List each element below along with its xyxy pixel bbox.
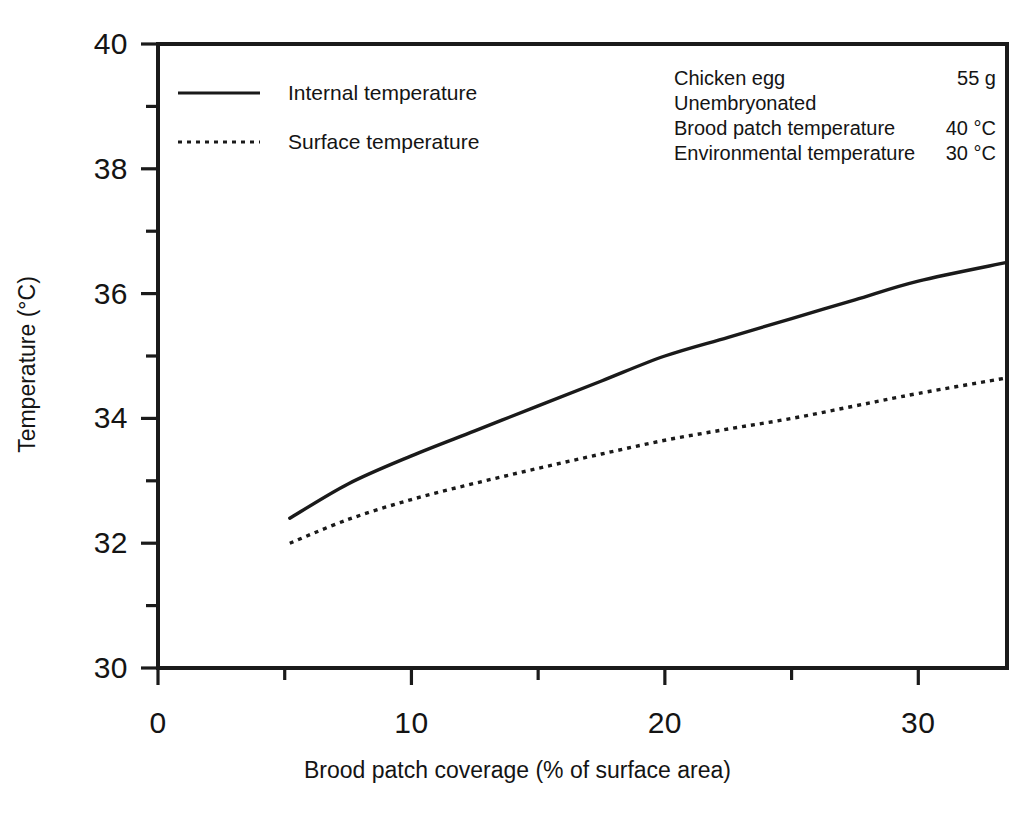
data-series (290, 262, 1007, 543)
x-tick-label: 0 (149, 706, 166, 740)
legend-label-internal: Internal temperature (288, 81, 477, 105)
y-tick-label: 36 (36, 277, 128, 311)
y-tick-label: 32 (36, 526, 128, 560)
chart-legend: Internal temperature Surface temperature (178, 68, 508, 166)
legend-label-surface: Surface temperature (288, 130, 479, 154)
annotation-row: Environmental temperature30 °C (674, 141, 996, 166)
legend-item-surface: Surface temperature (178, 117, 508, 166)
y-tick-label: 38 (36, 152, 128, 186)
annotation-label: Unembryonated (674, 91, 816, 116)
x-tick-label: 30 (901, 706, 935, 740)
x-tick-label: 10 (394, 706, 428, 740)
annotation-value: 40 °C (936, 116, 996, 141)
annotation-row: Unembryonated (674, 91, 996, 116)
annotation-label: Chicken egg (674, 66, 785, 91)
legend-key-solid-line-icon (178, 86, 260, 100)
experiment-conditions-annotation: Chicken egg55 gUnembryonatedBrood patch … (674, 66, 996, 166)
y-tick-label: 30 (36, 651, 128, 685)
y-axis-title: Temperature (°C) (14, 205, 41, 525)
annotation-row: Brood patch temperature40 °C (674, 116, 996, 141)
x-tick-label: 20 (648, 706, 682, 740)
x-axis-title: Brood patch coverage (% of surface area) (0, 757, 1035, 784)
annotation-label: Environmental temperature (674, 141, 915, 166)
legend-key-dotted-line-icon (178, 135, 260, 149)
annotation-label: Brood patch temperature (674, 116, 895, 141)
annotation-value: 30 °C (936, 141, 996, 166)
chart-figure: 303234363840 0102030 Temperature (°C) Br… (0, 0, 1035, 813)
annotation-row: Chicken egg55 g (674, 66, 996, 91)
series-line-internal (290, 262, 1007, 518)
y-tick-label: 40 (36, 27, 128, 61)
annotation-value: 55 g (947, 66, 996, 91)
legend-item-internal: Internal temperature (178, 68, 508, 117)
y-tick-label: 34 (36, 401, 128, 435)
